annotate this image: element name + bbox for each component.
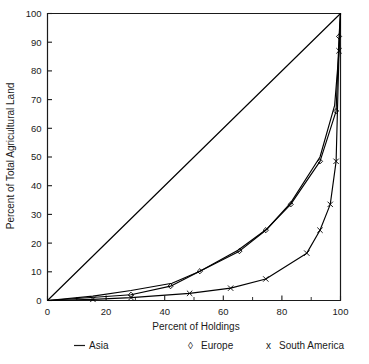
x-tick-label: 80 xyxy=(277,306,288,317)
x-tick-label: 60 xyxy=(218,306,229,317)
legend-label: Europe xyxy=(201,340,234,351)
y-axis-title: Percent of Total Agricultural Land xyxy=(5,83,16,230)
legend-label: South America xyxy=(279,340,344,351)
legend-label: Asia xyxy=(89,340,109,351)
y-tick-label: 80 xyxy=(31,65,42,76)
y-tick-label: 70 xyxy=(31,94,42,105)
y-tick-label: 40 xyxy=(31,180,42,191)
x-tick-label: 20 xyxy=(101,306,112,317)
chart-background xyxy=(0,0,369,364)
y-tick-label: 90 xyxy=(31,37,42,48)
lorenz-curve-chart: 0102030405060708090100 020406080100 Perc… xyxy=(0,0,369,364)
legend-marker-glyph: x xyxy=(266,340,271,351)
chart-canvas: 0102030405060708090100 020406080100 Perc… xyxy=(0,0,369,364)
x-tick-label: 0 xyxy=(45,306,50,317)
legend-marker-glyph: ◊ xyxy=(188,340,193,351)
x-tick-label: 40 xyxy=(159,306,170,317)
x-tick-label: 100 xyxy=(333,306,349,317)
x-axis-title: Percent of Holdings xyxy=(152,321,239,332)
y-tick-label: 20 xyxy=(31,238,42,249)
y-tick-label: 30 xyxy=(31,209,42,220)
y-tick-label: 50 xyxy=(31,151,42,162)
y-tick-label: 0 xyxy=(36,295,41,306)
y-tick-label: 100 xyxy=(26,8,42,19)
y-tick-label: 60 xyxy=(31,123,42,134)
y-tick-label: 10 xyxy=(31,266,42,277)
